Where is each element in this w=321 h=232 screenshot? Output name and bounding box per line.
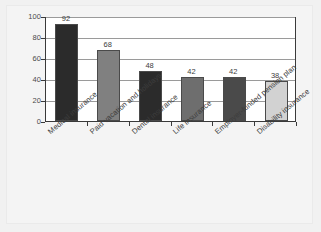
x-axis-category-labels: Medical insurancePaid vacation and holid… — [0, 122, 321, 232]
y-axis-tick-marks — [0, 17, 45, 122]
bar-value-label: 42 — [177, 67, 205, 76]
bar-value-label: 92 — [52, 14, 80, 23]
chart-screenshot: 020406080100 926848424238 Medical insura… — [0, 0, 321, 232]
bar-value-label: 68 — [94, 40, 122, 49]
bar-value-label: 48 — [136, 61, 164, 70]
bar-value-label: 42 — [219, 67, 247, 76]
